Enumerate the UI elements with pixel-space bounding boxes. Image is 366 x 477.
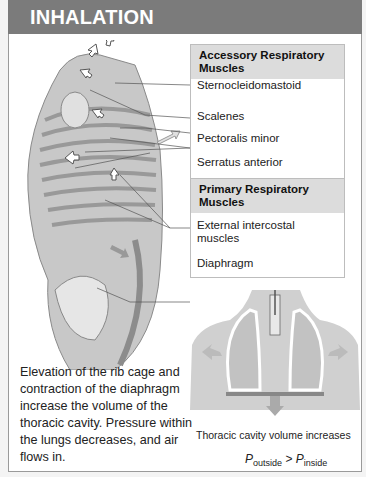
label-pectoralis-minor: Pectoralis minor <box>197 132 279 145</box>
eq-sub-outside: outside <box>253 458 282 468</box>
eq-p-left: P <box>245 452 253 466</box>
eq-sub-inside: inside <box>304 458 328 468</box>
figure-title: INHALATION <box>30 6 154 29</box>
eq-operator: > <box>285 452 292 466</box>
label-diaphragm: Diaphragm <box>197 257 253 270</box>
eq-p-right: P <box>296 452 304 466</box>
label-scalenes: Scalenes <box>197 110 244 123</box>
lungs-diagram <box>190 290 360 420</box>
accessory-muscles-title: Accessory Respiratory Muscles <box>191 45 344 79</box>
label-sternocleidomastoid: Sternocleidomastoid <box>197 79 301 92</box>
label-external-intercostal: External intercostal muscles <box>197 219 307 245</box>
description-text: Elevation of the rib cage and contractio… <box>20 364 192 466</box>
volume-caption: Thoracic cavity volume increases <box>196 429 351 441</box>
header-bar: INHALATION <box>8 0 362 34</box>
label-serratus-anterior: Serratus anterior <box>197 156 283 169</box>
primary-muscles-title: Primary Respiratory Muscles <box>191 179 344 213</box>
pressure-equation: Poutside > Pinside <box>245 452 327 468</box>
